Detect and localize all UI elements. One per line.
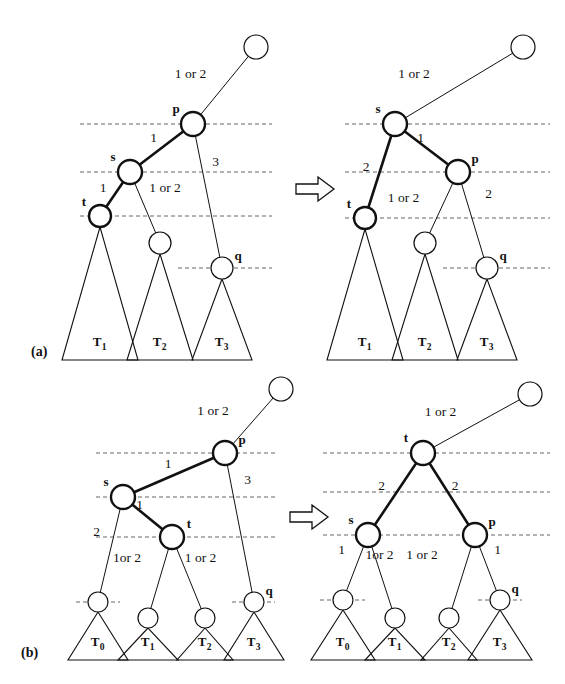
tree-node-p[interactable]: [213, 441, 237, 465]
edge-weight-label: 3: [244, 472, 251, 487]
edge-weight-label: 1: [417, 130, 424, 145]
edge-weight-label: 2: [363, 159, 370, 174]
subtree-label-subscript: 3: [489, 342, 494, 352]
tree-edge: [395, 47, 523, 124]
subtree-label: T3: [215, 334, 229, 352]
edge-weight-label: 2: [93, 524, 100, 539]
node-name-label: q: [265, 583, 273, 598]
edge-weight-label: 1 or 2: [175, 66, 207, 81]
subtree-label-subscript: 2: [451, 642, 456, 652]
tree-node-t[interactable]: [160, 525, 184, 549]
edge-weight-label: 1 or 2: [398, 66, 430, 81]
node-name-label: s: [103, 474, 108, 489]
tree-node-t[interactable]: [411, 441, 435, 465]
subtree-label: T3: [480, 334, 494, 352]
figure-canvas: T1T2T31 or 2111 or 23pstqT1T2T31 or 2121…: [0, 0, 565, 684]
subtree-label-text: T: [480, 334, 489, 349]
labels-layer: T1T2T31 or 2111 or 23pstqT1T2T31 or 2121…: [82, 66, 520, 653]
node-name-label: p: [488, 514, 495, 529]
node-name-label: p: [172, 101, 179, 116]
tree-edge: [458, 172, 487, 268]
tree-edge-highlighted: [423, 453, 475, 535]
tree-node-p[interactable]: [181, 112, 205, 136]
tree-node-p[interactable]: [446, 160, 470, 184]
tree-node[interactable]: [138, 608, 158, 628]
node-name-label: q: [511, 581, 519, 596]
node-name-label: q: [499, 248, 507, 263]
node-name-label: t: [187, 516, 192, 531]
tree-node-s[interactable]: [118, 160, 142, 184]
subtree-label-subscript: 0: [100, 642, 105, 652]
tree-node[interactable]: [518, 382, 542, 406]
edge-weight-label: 1 or 2: [197, 403, 229, 418]
subtree-label-text: T: [91, 634, 100, 649]
tree-node[interactable]: [88, 592, 108, 612]
edge-weight-label: 2: [485, 186, 492, 201]
edge-weight-label: 1or 2: [365, 547, 393, 562]
subtree-label-text: T: [153, 334, 162, 349]
subtree-label-text: T: [493, 634, 502, 649]
tree-node[interactable]: [195, 608, 215, 628]
tree-node-s[interactable]: [383, 112, 407, 136]
subtree-label-subscript: 1: [397, 642, 402, 652]
subtree-label-text: T: [215, 334, 224, 349]
subtree-label-subscript: 3: [224, 342, 229, 352]
tree-node[interactable]: [414, 232, 436, 254]
subtree-label-subscript: 1: [150, 642, 155, 652]
subtree-label-text: T: [442, 634, 451, 649]
subtree-label-subscript: 1: [102, 342, 107, 352]
subtree-label-subscript: 3: [256, 642, 261, 652]
subtree-label-subscript: 2: [162, 342, 167, 352]
edge-weight-label: 1: [100, 180, 107, 195]
tree-node[interactable]: [149, 232, 171, 254]
subtree-label: T2: [153, 334, 167, 352]
subtree-label: T0: [91, 634, 105, 652]
tree-node[interactable]: [244, 35, 268, 59]
edge-weight-label: 2: [378, 478, 385, 493]
subtree-label-text: T: [336, 634, 345, 649]
tree-node[interactable]: [511, 35, 535, 59]
tree-node[interactable]: [333, 590, 353, 610]
subtree-triangles-layer: [62, 227, 532, 660]
tree-node-t[interactable]: [89, 205, 111, 227]
tree-node[interactable]: [385, 608, 405, 628]
tree-node[interactable]: [269, 377, 293, 401]
subtree-label-subscript: 3: [502, 642, 507, 652]
node-name-label: s: [375, 101, 380, 116]
subtree-label-text: T: [247, 634, 256, 649]
edge-weight-label: 1 or 2: [185, 550, 217, 565]
tree-node-s[interactable]: [356, 523, 380, 547]
edge-weight-label: 1or 2: [113, 550, 141, 565]
tree-node-q[interactable]: [490, 590, 510, 610]
tree-node[interactable]: [439, 608, 459, 628]
node-name-label: p: [238, 432, 245, 447]
edge-weight-label: 1: [494, 542, 501, 557]
subtree-label: T1: [93, 334, 107, 352]
tree-node-p[interactable]: [463, 523, 487, 547]
tree-node-q[interactable]: [244, 592, 264, 612]
tree-node-s[interactable]: [111, 485, 135, 509]
subtree-label: T0: [336, 634, 350, 652]
tree-node-q[interactable]: [476, 257, 498, 279]
edge-weight-label: 1: [150, 130, 157, 145]
subtree-label: T1: [388, 634, 402, 652]
subtree-label-subscript: 0: [345, 642, 350, 652]
node-name-label: s: [348, 512, 353, 527]
node-name-label: t: [347, 196, 352, 211]
tree-node-t[interactable]: [354, 207, 376, 229]
tree-edge: [193, 47, 256, 124]
node-name-label: q: [234, 248, 242, 263]
node-name-label: s: [110, 149, 115, 164]
tree-edge-highlighted: [368, 453, 423, 535]
transform-arrow-icon: [296, 177, 334, 201]
tree-edge-highlighted: [123, 453, 225, 497]
edge-weight-label: 1 or 2: [406, 547, 438, 562]
subtree-label-text: T: [388, 634, 397, 649]
edge-weight-label: 1: [338, 542, 345, 557]
subtree-label-text: T: [418, 334, 427, 349]
edge-weight-label: 1 or 2: [149, 180, 181, 195]
tree-node-q[interactable]: [211, 257, 233, 279]
subtree-label-text: T: [198, 634, 207, 649]
subtree-label-text: T: [358, 334, 367, 349]
subtree-label: T1: [358, 334, 372, 352]
